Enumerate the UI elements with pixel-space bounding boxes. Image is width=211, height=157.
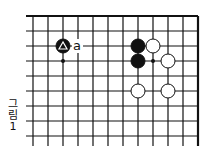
white-stone	[161, 84, 175, 98]
point-marker	[151, 59, 155, 63]
point-marker	[61, 59, 65, 63]
black-stone	[131, 39, 145, 53]
point-label: a	[73, 38, 81, 53]
figure-caption: 그 림 1	[5, 99, 21, 132]
caption-char: 1	[10, 121, 17, 132]
black-stone	[131, 54, 145, 68]
white-stone	[146, 39, 160, 53]
white-stone	[161, 54, 175, 68]
go-board: a	[0, 0, 211, 157]
white-stone	[131, 84, 145, 98]
